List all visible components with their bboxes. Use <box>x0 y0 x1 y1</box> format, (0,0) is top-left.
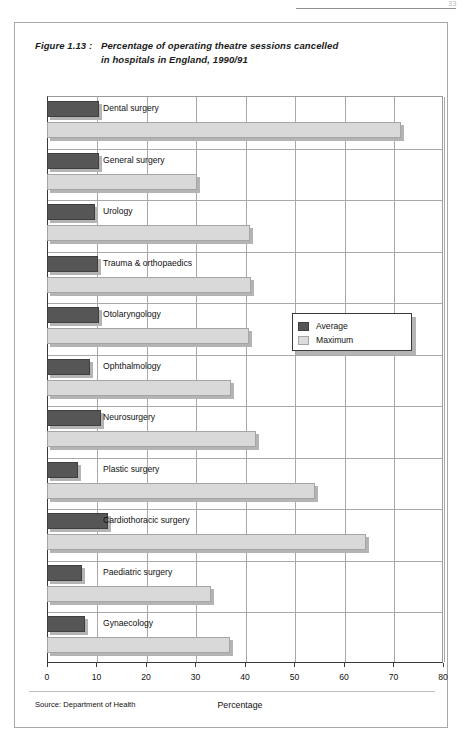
x-axis-tick-label: 0 <box>45 672 50 682</box>
chart-row-separator <box>48 149 442 150</box>
chart-row-separator <box>48 406 442 407</box>
x-axis-tick-label: 80 <box>438 672 448 682</box>
source-divider <box>29 691 435 692</box>
x-axis-tickmark <box>294 663 295 667</box>
x-axis-tickmark <box>146 663 147 667</box>
page-number: 33 <box>448 0 457 7</box>
chart-legend: Average Maximum <box>292 313 416 355</box>
x-axis-tick-label: 50 <box>290 672 300 682</box>
figure-source: Source: Department of Health <box>35 700 135 709</box>
chart-bar-maximum <box>47 637 233 656</box>
chart-gridline <box>295 97 296 662</box>
chart-bar-maximum <box>47 174 200 193</box>
legend-swatch-maximum-icon <box>298 336 309 345</box>
chart-bar-body <box>47 483 315 499</box>
chart-category-label: Paediatric surgery <box>103 567 172 577</box>
chart-category-label: Cardiothoracic surgery <box>103 515 189 525</box>
chart-row-separator <box>48 561 442 562</box>
x-axis-tickmark <box>195 663 196 667</box>
chart-bar-maximum <box>47 534 369 553</box>
x-axis-tick-label: 30 <box>191 672 201 682</box>
chart-row-separator <box>48 252 442 253</box>
chart-bar-body <box>47 565 82 581</box>
chart-bar-average <box>47 565 85 584</box>
chart-bar-body <box>47 462 78 478</box>
figure-label: Figure 1.13 : <box>35 39 101 53</box>
chart-bar-maximum <box>47 380 234 399</box>
x-axis-tick-label: 70 <box>389 672 399 682</box>
figure-title-text: Percentage of operating theatre sessions… <box>101 39 421 67</box>
chart-bar-maximum <box>47 483 318 502</box>
chart-bar-body <box>47 513 108 529</box>
chart-row-separator <box>48 509 442 510</box>
chart-category-label: General surgery <box>103 155 165 165</box>
chart-bar-average <box>47 616 88 635</box>
chart-bar-body <box>47 359 90 375</box>
x-axis-tickmark <box>344 663 345 667</box>
chart-plot-area: Dental surgeryGeneral surgeryUrologyTrau… <box>33 96 447 671</box>
chart-category-label: Gynaecology <box>103 618 153 628</box>
legend-entry-maximum: Maximum <box>316 335 353 345</box>
chart-bar-average <box>47 359 93 378</box>
chart-row-separator <box>48 303 442 304</box>
chart-bar-maximum <box>47 586 214 605</box>
chart-row-separator <box>48 355 442 356</box>
figure-container: Figure 1.13 :Percentage of operating the… <box>14 22 448 728</box>
x-axis-tickmark <box>245 663 246 667</box>
chart-bar-maximum <box>47 277 254 296</box>
x-axis-tickmark <box>393 663 394 667</box>
figure-title-line2: in hospitals in England, 1990/91 <box>101 54 248 65</box>
x-axis-tick-label: 60 <box>339 672 349 682</box>
chart-category-label: Urology <box>103 206 133 216</box>
chart-gridline <box>444 97 445 662</box>
chart-bar-body <box>47 586 211 602</box>
figure-title-line1: Percentage of operating theatre sessions… <box>101 40 338 51</box>
figure-title: Figure 1.13 :Percentage of operating the… <box>35 39 433 67</box>
page-header-rule <box>296 8 456 9</box>
chart-bar-body <box>47 256 98 272</box>
chart-bar-maximum <box>47 225 253 244</box>
chart-bar-average <box>47 307 102 326</box>
chart-bar-body <box>47 174 197 190</box>
x-axis-tickmark <box>47 663 48 667</box>
chart-bar-body <box>47 204 95 220</box>
chart-bar-body <box>47 328 249 344</box>
chart-row-separator <box>48 200 442 201</box>
chart-category-label: Neurosurgery <box>103 412 155 422</box>
chart-bar-maximum <box>47 328 252 347</box>
chart-bar-maximum <box>47 431 259 450</box>
chart-bar-body <box>47 380 231 396</box>
x-axis-tick-label: 40 <box>240 672 250 682</box>
chart-bar-body <box>47 410 101 426</box>
chart-bar-average <box>47 204 98 223</box>
chart-bar-average <box>47 410 104 429</box>
chart-bar-average <box>47 462 81 481</box>
chart-bar-average <box>47 256 101 275</box>
chart-bar-body <box>47 534 366 550</box>
chart-row-separator <box>48 458 442 459</box>
x-axis-tick-label: 20 <box>141 672 151 682</box>
chart-category-label: Plastic surgery <box>103 464 159 474</box>
chart-bar-body <box>47 431 256 447</box>
chart-category-label: Dental surgery <box>103 103 159 113</box>
chart-bar-average <box>47 101 102 120</box>
chart-bar-body <box>47 225 250 241</box>
chart-category-label: Ophthalmology <box>103 361 161 371</box>
x-axis-tickmark <box>96 663 97 667</box>
legend-label-maximum: Maximum <box>316 335 353 345</box>
chart-bar-maximum <box>47 122 404 141</box>
legend-entry-average: Average <box>316 321 348 331</box>
chart-bar-body <box>47 637 230 653</box>
chart-category-label: Otolaryngology <box>103 309 161 319</box>
legend-box <box>292 313 412 351</box>
chart-gridline <box>246 97 247 662</box>
chart-bar-body <box>47 122 401 138</box>
chart-bar-body <box>47 616 85 632</box>
chart-category-label: Trauma & orthopaedics <box>103 258 192 268</box>
chart-row-separator <box>48 612 442 613</box>
chart-bar-body <box>47 277 251 293</box>
chart-gridline <box>345 97 346 662</box>
chart-bar-average <box>47 513 111 532</box>
x-axis-tick-label: 10 <box>92 672 102 682</box>
chart-bar-body <box>47 307 99 323</box>
